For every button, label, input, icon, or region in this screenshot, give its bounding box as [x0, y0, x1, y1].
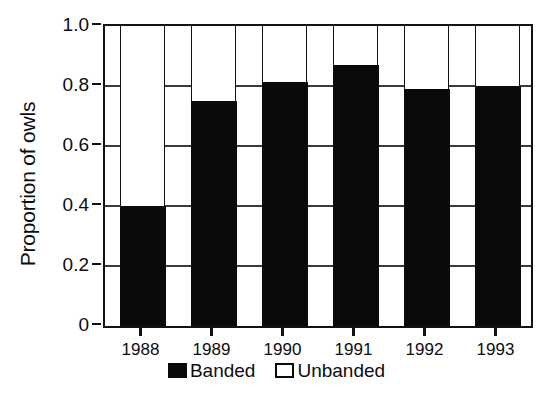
gridline [105, 205, 531, 207]
y-tick-label: 1.0 [37, 15, 89, 34]
chart-figure: Proportion of owls 1.00.80.60.40.20 1988… [0, 0, 553, 397]
y-tick-label: 0.6 [37, 135, 89, 154]
x-tick-label-1990: 1990 [243, 341, 323, 358]
legend-entry-banded[interactable]: Banded [168, 361, 256, 380]
legend-swatch-icon-banded [168, 363, 187, 378]
y-tick-mark [92, 83, 101, 86]
bar-1989[interactable] [191, 26, 236, 326]
x-tick-mark [139, 327, 142, 336]
bar-segment-banded-1990[interactable] [262, 82, 308, 327]
x-tick-label-1991: 1991 [314, 341, 394, 358]
x-tick-label-1989: 1989 [172, 341, 252, 358]
bar-1990[interactable] [262, 26, 307, 326]
x-tick-mark [352, 327, 355, 336]
y-tick-mark [92, 203, 101, 206]
x-tick-mark [281, 327, 284, 336]
bar-segment-banded-1992[interactable] [404, 89, 450, 326]
y-tick-label: 0.4 [37, 195, 89, 214]
plot-area [103, 24, 533, 328]
legend-label: Unbanded [297, 361, 385, 380]
x-tick-label-1992: 1992 [385, 341, 465, 358]
legend-swatch-icon-unbanded [275, 363, 294, 378]
x-tick-label-1988: 1988 [101, 341, 181, 358]
y-tick-mark [92, 143, 101, 146]
bar-segment-banded-1991[interactable] [333, 65, 379, 326]
x-tick-mark [210, 327, 213, 336]
bar-segment-banded-1988[interactable] [120, 206, 166, 326]
gridline [105, 85, 531, 87]
bar-segment-banded-1989[interactable] [191, 101, 237, 326]
y-tick-label: 0 [37, 315, 89, 334]
chart-legend: BandedUnbanded [0, 361, 553, 380]
y-tick-mark [92, 23, 101, 26]
bar-1988[interactable] [120, 26, 165, 326]
x-tick-label-1993: 1993 [456, 341, 536, 358]
y-tick-mark [92, 263, 101, 266]
x-tick-mark [494, 327, 497, 336]
legend-entry-unbanded[interactable]: Unbanded [275, 361, 385, 380]
bar-1992[interactable] [404, 26, 449, 326]
gridline [105, 145, 531, 147]
bar-1993[interactable] [475, 26, 520, 326]
x-tick-mark [423, 327, 426, 336]
y-tick-label: 0.2 [37, 255, 89, 274]
y-tick-mark [92, 323, 101, 326]
bar-1991[interactable] [333, 26, 378, 326]
legend-label: Banded [190, 361, 256, 380]
gridline [105, 265, 531, 267]
bar-segment-banded-1993[interactable] [475, 86, 521, 326]
y-tick-label: 0.8 [37, 75, 89, 94]
